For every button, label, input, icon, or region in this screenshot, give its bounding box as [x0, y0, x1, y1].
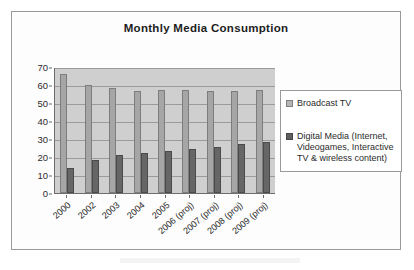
- y-axis-tick-label: 60: [37, 81, 48, 91]
- x-axis-tick-mark: [115, 195, 116, 198]
- x-axis-tick-label: 2004: [125, 200, 147, 221]
- y-axis-tick-label: 20: [37, 153, 48, 163]
- bar-digital-media: [116, 155, 123, 193]
- x-axis-tick-mark: [263, 195, 264, 198]
- y-axis: 010203040506070: [26, 68, 52, 194]
- bar-broadcast-tv: [231, 91, 238, 193]
- bar-digital-media: [238, 144, 245, 193]
- bar-digital-media: [214, 147, 221, 193]
- bar-broadcast-tv: [182, 90, 189, 193]
- legend-swatch-broadcast-tv: [286, 100, 293, 107]
- bar-digital-media: [67, 168, 74, 193]
- bar-digital-media: [141, 153, 148, 193]
- chart-title: Monthly Media Consumption: [12, 22, 400, 34]
- scan-artifact: [120, 258, 300, 263]
- bar-digital-media: [263, 142, 270, 193]
- x-axis-tick-mark: [189, 195, 190, 198]
- bar-group: [104, 68, 128, 193]
- bar-group: [55, 68, 79, 193]
- bar-group: [177, 68, 201, 193]
- x-axis-tick-mark: [66, 195, 67, 198]
- y-axis-tick-mark: [49, 194, 52, 195]
- x-axis-tick-mark: [238, 195, 239, 198]
- y-axis-tick-label: 40: [37, 117, 48, 127]
- legend-label: Broadcast TV: [297, 98, 351, 109]
- y-axis-tick-mark: [49, 176, 52, 177]
- bar-broadcast-tv: [158, 90, 165, 193]
- x-axis-tick-mark: [165, 195, 166, 198]
- bar-broadcast-tv: [85, 85, 92, 193]
- y-axis-tick-label: 30: [37, 135, 48, 145]
- x-axis-tick-label: 2003: [100, 200, 122, 221]
- x-axis: 200020022003200420052006 (proj)2007 (pro…: [54, 195, 275, 253]
- bar-group: [226, 68, 250, 193]
- bar-broadcast-tv: [256, 90, 263, 193]
- bar-groups: [55, 68, 275, 193]
- bar-group: [128, 68, 152, 193]
- bar-broadcast-tv: [207, 91, 214, 193]
- bar-digital-media: [165, 151, 172, 193]
- bar-broadcast-tv: [109, 88, 116, 193]
- legend-label: Digital Media (Internet, Videogames, Int…: [297, 131, 396, 164]
- bar-group: [153, 68, 177, 193]
- plot-area: [54, 68, 275, 194]
- x-axis-tick-label: 2000: [51, 200, 73, 221]
- legend-entry[interactable]: Digital Media (Internet, Videogames, Int…: [286, 131, 396, 164]
- x-axis-tick-mark: [91, 195, 92, 198]
- y-axis-tick-label: 50: [37, 99, 48, 109]
- bar-broadcast-tv: [60, 74, 67, 193]
- legend-swatch-digital-media: [286, 133, 293, 140]
- bar-group: [251, 68, 275, 193]
- y-axis-tick-mark: [49, 122, 52, 123]
- bar-group: [79, 68, 103, 193]
- bar-digital-media: [189, 149, 196, 193]
- y-axis-tick-mark: [49, 68, 52, 69]
- y-axis-tick-mark: [49, 158, 52, 159]
- legend-entry[interactable]: Broadcast TV: [286, 98, 396, 109]
- x-axis-tick-label: 2002: [76, 200, 98, 221]
- y-axis-tick-label: 10: [37, 171, 48, 181]
- y-axis-tick-mark: [49, 140, 52, 141]
- bar-broadcast-tv: [134, 91, 141, 193]
- chart-legend: Broadcast TVDigital Media (Internet, Vid…: [280, 90, 402, 172]
- y-axis-tick-label: 0: [43, 189, 48, 199]
- y-axis-tick-mark: [49, 86, 52, 87]
- bar-group: [202, 68, 226, 193]
- x-axis-tick-mark: [214, 195, 215, 198]
- chart-frame: Monthly Media Consumption 01020304050607…: [11, 11, 401, 250]
- x-axis-tick-mark: [140, 195, 141, 198]
- bar-digital-media: [92, 160, 99, 193]
- y-axis-tick-mark: [49, 104, 52, 105]
- y-axis-tick-label: 70: [37, 63, 48, 73]
